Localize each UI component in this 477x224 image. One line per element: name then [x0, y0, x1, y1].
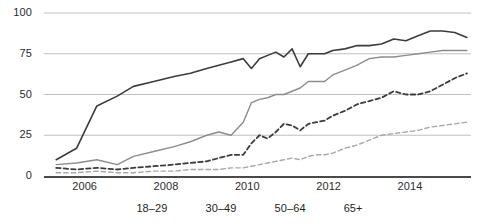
legend-item-30–49[interactable]: 30–49 — [183, 202, 236, 214]
legend-label: 18–29 — [136, 202, 167, 214]
y-tick-100: 100 — [2, 6, 32, 18]
y-tick-75: 75 — [2, 47, 32, 59]
legend-item-18–29[interactable]: 18–29 — [114, 202, 167, 214]
gridlines — [44, 13, 471, 135]
legend-item-50–64[interactable]: 50–64 — [253, 202, 306, 214]
series-line-65+ — [56, 122, 467, 173]
y-tick-25: 25 — [2, 128, 32, 140]
series-line-18–29 — [56, 31, 467, 160]
legend-swatch-icon — [253, 207, 270, 209]
x-tick-2006: 2006 — [63, 180, 107, 192]
series-line-30–49 — [56, 50, 467, 164]
legend-label: 30–49 — [205, 202, 236, 214]
line-chart: 1007550250 20062008201020122014 18–2930–… — [0, 0, 477, 224]
y-tick-50: 50 — [2, 88, 32, 100]
legend-swatch-icon — [183, 207, 200, 209]
legend-item-65+[interactable]: 65+ — [322, 202, 363, 214]
x-tick-2012: 2012 — [307, 180, 351, 192]
legend-swatch-icon — [322, 207, 339, 209]
series-line-50–64 — [56, 73, 467, 169]
legend-label: 50–64 — [275, 202, 306, 214]
x-tick-2008: 2008 — [144, 180, 188, 192]
x-tick-2010: 2010 — [225, 180, 269, 192]
legend-label: 65+ — [344, 202, 363, 214]
y-tick-0: 0 — [2, 169, 32, 181]
series-lines — [56, 31, 467, 173]
chart-legend: 18–2930–4950–6465+ — [0, 198, 477, 218]
legend-swatch-icon — [114, 207, 131, 209]
x-tick-2014: 2014 — [388, 180, 432, 192]
